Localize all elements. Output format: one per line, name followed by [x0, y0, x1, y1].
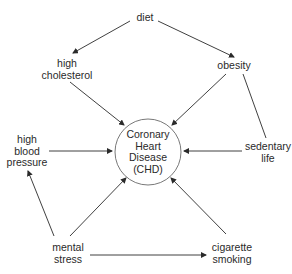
edge-cholesterol-to-chd: [70, 82, 124, 125]
edge-obesity-to-sedentary: [243, 74, 266, 138]
node-high-cholesterol: high cholesterol: [42, 58, 93, 81]
node-chd: Coronary Heart Disease (CHD): [126, 129, 169, 175]
node-mental-stress: mental stress: [52, 242, 84, 265]
node-diet: diet: [137, 12, 154, 24]
edge-stress-to-chd: [70, 178, 126, 236]
edge-diet-to-obesity: [158, 21, 234, 57]
node-obesity: obesity: [217, 60, 250, 72]
edge-diet-to-cholesterol: [73, 21, 130, 53]
node-high-blood-pressure: high blood pressure: [7, 134, 48, 169]
edge-obesity-to-chd: [172, 74, 226, 125]
edge-smoking-to-chd: [171, 178, 226, 234]
node-sedentary-life: sedentary life: [245, 141, 291, 164]
edge-stress-to-bloodpressure: [28, 171, 54, 236]
node-cigarette-smoking: cigarette smoking: [212, 242, 252, 265]
